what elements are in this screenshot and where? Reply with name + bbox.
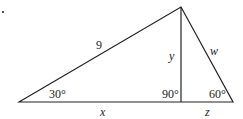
- base-left-label: x: [99, 105, 106, 119]
- angle-right-label: 60°: [209, 87, 226, 101]
- angle-left-label: 30°: [49, 87, 66, 101]
- triangle-diagram: 9 y w x z 30° 90° 60°: [0, 0, 243, 119]
- right-side-label: w: [210, 44, 218, 58]
- angle-foot-label: 90°: [162, 87, 179, 101]
- altitude-label: y: [168, 49, 175, 63]
- hypotenuse-label: 9: [96, 38, 102, 52]
- base-right-label: z: [204, 105, 210, 119]
- bullet-dot: [2, 11, 4, 13]
